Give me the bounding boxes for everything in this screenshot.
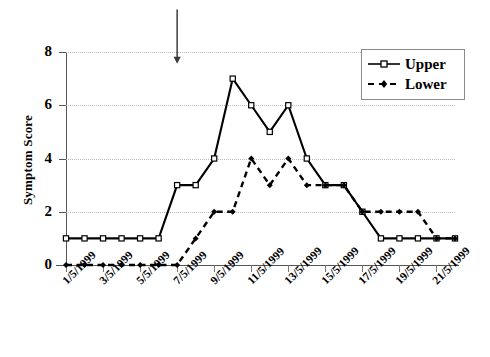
legend-swatch-solid-square-icon [367, 56, 401, 72]
arrow-head-0 [174, 57, 181, 64]
legend-swatch-dashed-diamond-icon [367, 76, 401, 92]
legend: Upper Lower [361, 49, 465, 100]
symptom-score-chart: Symptom Score 02468 1/5/19993/5/19995/5/… [0, 0, 490, 357]
legend-label-lower: Lower [401, 77, 447, 92]
legend-label-upper: Upper [401, 57, 446, 72]
legend-item-lower: Lower [367, 74, 459, 94]
legend-item-upper: Upper [367, 54, 459, 74]
